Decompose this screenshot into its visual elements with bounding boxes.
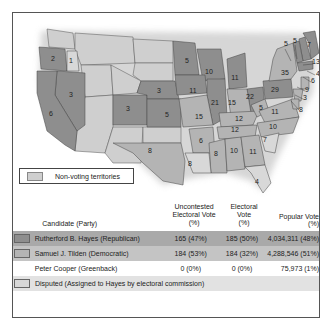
state-label-in: 15 [228,99,236,106]
hayes-swatch [14,234,30,243]
state-label-me: 7 [307,41,311,48]
state-label-pa: 29 [271,86,279,93]
state-label-tx: 8 [148,147,152,154]
state-label-or: 2 [51,55,55,62]
header-popular: Popular Vote (%) [267,213,319,227]
table-row: Samuel J. Tilden (Democratic) 184 (53%) … [13,246,319,261]
table-row: Peter Cooper (Greenback) 0 (0%) 0 (0%) 7… [13,261,319,276]
header-uncontested: Uncontested Electoral Vote (%) [167,203,221,227]
table-row: Rutherford B. Hayes (Republican) 165 (47… [13,231,319,246]
state-label-sc: 7 [263,136,267,143]
state-label-ky: 12 [235,115,243,122]
state-label-nc: 10 [269,123,277,130]
state-label-oh: 22 [246,93,254,100]
state-label-ia: 11 [189,87,196,94]
state-label-ar: 6 [199,137,203,144]
state-label-ks: 5 [165,111,169,118]
header-electoral: Electoral Vote (%) [221,203,267,227]
state-label-ga: 11 [249,148,256,155]
state-label-ms: 8 [214,150,218,157]
state-label-va: 11 [271,108,278,115]
state-label-ma: 13 [312,58,319,65]
state-label-ct: 6 [311,77,315,84]
state-label-wv: 5 [259,104,263,111]
state-label-mo: 15 [195,113,203,120]
state-label-mi: 11 [231,74,238,81]
state-label-fl: 4 [255,178,259,185]
state-label-nj: 9 [305,86,309,93]
state-label-ny: 35 [281,69,289,76]
header-candidate: Candidate (Party) [30,220,167,227]
non-voting-label: Non-voting territories [55,173,120,180]
state-label-mn: 5 [185,57,189,64]
state-label-co: 3 [126,105,130,112]
state-label-vt: 5 [284,40,288,47]
state-label-id: 1 [69,57,73,64]
state-label-md: 8 [299,106,303,113]
state-label-ca: 6 [49,110,53,117]
state-label-la: 8 [188,160,192,167]
state-label-ri: 4 [316,70,319,77]
disputed-swatch [14,279,30,288]
tilden-swatch [14,249,30,258]
state-label-il: 21 [211,99,219,106]
state-label-tn: 12 [231,126,239,133]
table-header: Candidate (Party) Uncontested Electoral … [13,189,319,231]
state-label-nv: 3 [69,91,73,98]
state-label-ne: 3 [157,87,161,94]
non-voting-legend: Non-voting territories [19,168,134,184]
state-label-de: 3 [303,94,307,101]
state-label-nh: 5 [293,37,297,44]
disputed-row: Disputed (Assigned to Hayes by electoral… [13,276,319,291]
results-table: Candidate (Party) Uncontested Electoral … [13,189,319,291]
non-voting-swatch [27,172,43,181]
election-map-figure: 2136335510112111152229351512511121067810… [12,12,320,318]
state-label-al: 10 [230,147,238,154]
state-label-wi: 10 [205,68,213,75]
